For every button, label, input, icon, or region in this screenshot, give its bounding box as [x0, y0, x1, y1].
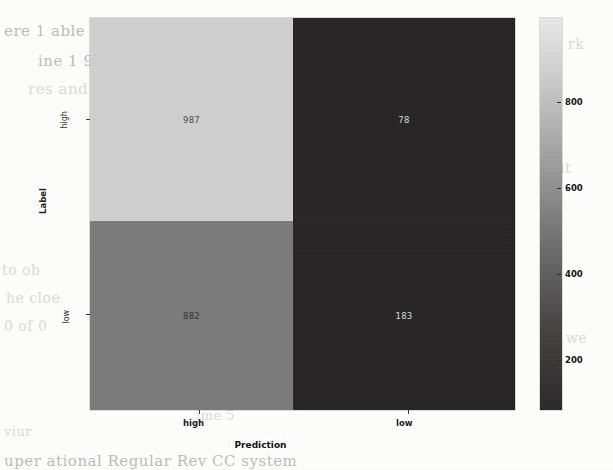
colorbar-tick-600: 600	[562, 183, 583, 193]
cell-value: 78	[398, 115, 409, 125]
x-tick-label-low: low	[396, 418, 413, 428]
colorbar	[540, 18, 562, 410]
x-tick-mark-low	[408, 410, 409, 414]
x-tick-label-high: high	[183, 418, 204, 428]
y-axis-title: Label	[30, 196, 56, 206]
heatmap-cell: 183	[293, 221, 515, 410]
colorbar-tick-800: 800	[562, 97, 583, 107]
scan-noise	[540, 18, 562, 410]
heatmap-plot-area: 987 78 882 183	[90, 18, 515, 410]
heatmap-cell: 78	[293, 18, 515, 221]
cell-value: 882	[183, 311, 200, 321]
y-tick-label-high: high	[54, 114, 74, 123]
y-tick-mark-low	[86, 314, 90, 315]
cell-value: 987	[183, 115, 200, 125]
cell-value: 183	[395, 311, 412, 321]
x-tick-mark-high	[199, 410, 200, 414]
y-tick-mark-high	[86, 119, 90, 120]
colorbar-tick-200: 200	[562, 355, 583, 365]
x-axis-title: Prediction	[0, 440, 613, 450]
y-tick-label-low: low	[56, 309, 76, 318]
heatmap-cell: 987	[90, 18, 293, 221]
heatmap-cell: 882	[90, 221, 293, 410]
colorbar-tick-400: 400	[562, 269, 583, 279]
